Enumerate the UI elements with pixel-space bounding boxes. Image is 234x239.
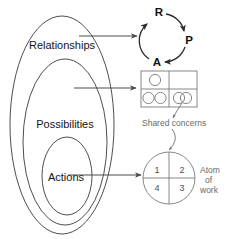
cycle-arc-a-to-r (139, 24, 149, 59)
cycle-node-r: R (155, 6, 164, 18)
shared-concerns-to-atom-arrow (169, 129, 175, 150)
diagram-canvas: Relationships Possibilities Actions R P … (0, 0, 234, 239)
cycle-arc-p-to-a (165, 47, 185, 62)
rpa-cycle: R P A (139, 6, 193, 68)
concept-diagram: Relationships Possibilities Actions R P … (0, 0, 234, 239)
grid-cell-4-circle-a (173, 92, 184, 103)
grid-cell-3-circle-a (143, 92, 154, 103)
shared-concerns-grid (141, 71, 197, 107)
label-relationships: Relationships (29, 39, 96, 51)
label-possibilities: Possibilities (36, 118, 94, 130)
nested-domain-ellipses: Relationships Possibilities Actions (10, 16, 114, 234)
cycle-node-a: A (153, 56, 161, 68)
atom-quadrant-1: 1 (154, 165, 159, 175)
ellipse-possibilities (23, 59, 107, 225)
shared-concerns-annotation: Shared concerns (142, 103, 206, 150)
atom-of-work: 1 2 3 4 Atom of work (143, 152, 220, 204)
atom-quadrant-2: 2 (179, 165, 184, 175)
grid-cell-4-circle-b (180, 92, 191, 103)
cycle-node-p: P (185, 34, 193, 46)
shared-concerns-caption: Shared concerns (142, 118, 206, 128)
atom-quadrant-4: 4 (154, 183, 159, 193)
grid-cell-1-circle (149, 74, 160, 85)
atom-quadrant-3: 3 (179, 183, 184, 193)
atom-label-line-3: work (199, 185, 219, 195)
atom-label-line-1: Atom (200, 165, 220, 175)
connector-arrows (68, 36, 141, 175)
atom-label-line-2: of (205, 175, 213, 185)
cycle-arc-r-to-p (166, 14, 184, 31)
shared-concerns-leader-arrow (173, 103, 182, 118)
grid-cell-3-circle-b (155, 92, 166, 103)
label-actions: Actions (48, 171, 85, 183)
